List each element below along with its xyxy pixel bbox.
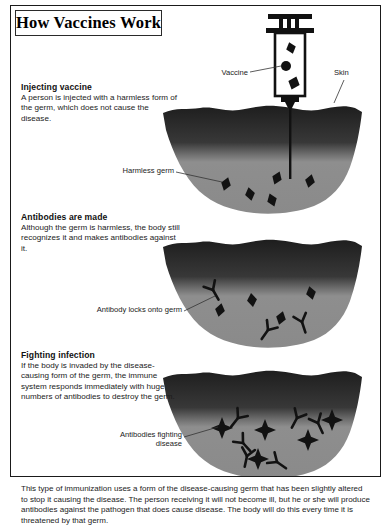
- step-fighting-infection: Fighting infection If the body is invade…: [21, 350, 181, 403]
- step-1-body: A person is injected with a harmless for…: [21, 93, 181, 124]
- label-antibody-locks: Antibody locks onto germ: [96, 305, 182, 314]
- label-harmless-germ: Harmless germ: [112, 166, 174, 175]
- page-title: How Vaccines Work: [15, 10, 162, 36]
- label-vaccine: Vaccine: [196, 68, 248, 77]
- step-1-heading: Injecting vaccine: [21, 82, 181, 92]
- step-2-body: Although the germ is harmless, the body …: [21, 223, 181, 254]
- step-injecting-vaccine: Injecting vaccine A person is injected w…: [21, 82, 181, 124]
- label-skin: Skin: [334, 68, 374, 77]
- step-3-body: If the body is invaded by the disease-ca…: [21, 361, 181, 403]
- step-antibodies-are-made: Antibodies are made Although the germ is…: [21, 212, 181, 254]
- label-antibodies-fighting: Antibodies fighting disease: [100, 430, 182, 448]
- step-2-heading: Antibodies are made: [21, 212, 181, 222]
- page-title-text: How Vaccines Work: [16, 13, 161, 33]
- footer-text: This type of immunization uses a form of…: [21, 484, 370, 526]
- footer-panel: This type of immunization uses a form of…: [10, 476, 381, 519]
- step-3-heading: Fighting infection: [21, 350, 181, 360]
- vaccine-infographic: How Vaccines Work Injecting vaccine A pe…: [0, 0, 391, 530]
